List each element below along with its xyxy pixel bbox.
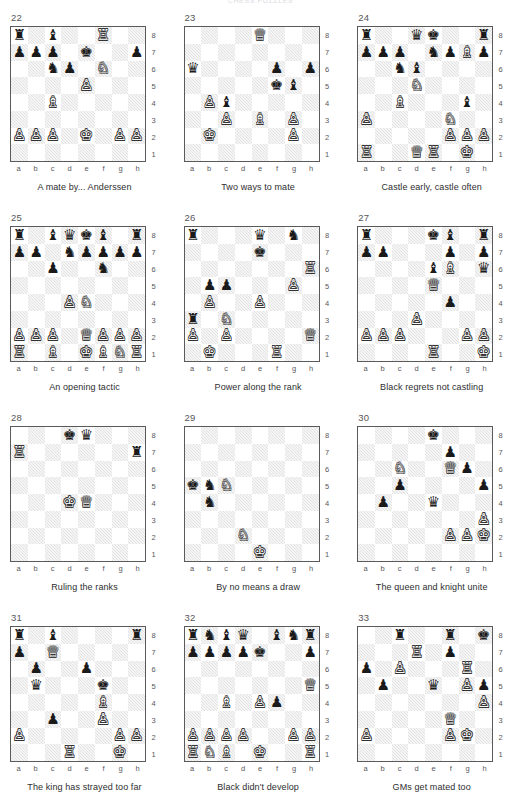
piece-bB-f8[interactable]: ♝ bbox=[268, 627, 285, 644]
square-e1[interactable] bbox=[252, 344, 269, 361]
square-c5[interactable] bbox=[218, 677, 235, 694]
square-a2[interactable] bbox=[185, 128, 202, 145]
square-g8[interactable] bbox=[285, 27, 302, 44]
square-c3[interactable] bbox=[45, 111, 62, 128]
piece-wN-f3[interactable]: ♘ bbox=[442, 111, 459, 128]
square-e8[interactable]: ♕ bbox=[252, 27, 269, 44]
square-h4[interactable] bbox=[128, 694, 145, 711]
square-f3[interactable]: ♕ bbox=[442, 711, 459, 728]
square-c3[interactable] bbox=[218, 711, 235, 728]
square-a5[interactable] bbox=[358, 677, 375, 694]
piece-bP-c5[interactable]: ♟ bbox=[392, 477, 409, 494]
square-d2[interactable] bbox=[408, 528, 425, 545]
square-g5[interactable]: ♙ bbox=[285, 277, 302, 294]
piece-wP-h2[interactable]: ♙ bbox=[302, 728, 319, 745]
square-e4[interactable] bbox=[425, 694, 442, 711]
square-b3[interactable] bbox=[28, 511, 45, 528]
square-g8[interactable] bbox=[112, 227, 129, 244]
square-h1[interactable]: ♔ bbox=[475, 344, 492, 361]
square-h2[interactable] bbox=[302, 128, 319, 145]
piece-bK-e8[interactable]: ♚ bbox=[425, 427, 442, 444]
square-b5[interactable]: ♟ bbox=[375, 677, 392, 694]
square-e2[interactable] bbox=[252, 328, 269, 345]
square-h5[interactable]: ♕ bbox=[302, 677, 319, 694]
piece-wP-b2[interactable]: ♙ bbox=[28, 128, 45, 145]
square-f5[interactable] bbox=[95, 77, 112, 94]
square-d3[interactable]: ♙ bbox=[408, 311, 425, 328]
square-f5[interactable] bbox=[268, 477, 285, 494]
square-a5[interactable] bbox=[185, 677, 202, 694]
piece-bP-b6[interactable]: ♟ bbox=[28, 661, 45, 678]
piece-bR-h7[interactable]: ♜ bbox=[128, 444, 145, 461]
square-f6[interactable]: ♕ bbox=[442, 461, 459, 478]
square-f4[interactable] bbox=[95, 494, 112, 511]
square-c5[interactable]: ♘ bbox=[218, 477, 235, 494]
piece-wR-f8[interactable]: ♖ bbox=[95, 27, 112, 44]
square-f3[interactable] bbox=[442, 511, 459, 528]
square-a2[interactable]: ♙ bbox=[11, 128, 28, 145]
square-b6[interactable] bbox=[201, 261, 218, 278]
piece-wQ-e4[interactable]: ♕ bbox=[78, 494, 95, 511]
square-a6[interactable] bbox=[185, 261, 202, 278]
piece-bK-h8[interactable]: ♚ bbox=[475, 627, 492, 644]
piece-wK-e1[interactable]: ♔ bbox=[78, 344, 95, 361]
piece-bQ-d8[interactable]: ♛ bbox=[235, 627, 252, 644]
square-c5[interactable]: ♟ bbox=[392, 477, 409, 494]
square-d8[interactable] bbox=[235, 427, 252, 444]
piece-bB-c8[interactable]: ♝ bbox=[45, 227, 62, 244]
square-e3[interactable] bbox=[252, 311, 269, 328]
square-e1[interactable]: ♖ bbox=[425, 344, 442, 361]
square-b1[interactable] bbox=[375, 144, 392, 161]
piece-bP-h6[interactable]: ♟ bbox=[302, 61, 319, 78]
square-a4[interactable] bbox=[185, 494, 202, 511]
piece-bP-f7[interactable]: ♟ bbox=[442, 644, 459, 661]
square-a6[interactable] bbox=[185, 461, 202, 478]
square-e8[interactable]: ♚ bbox=[425, 27, 442, 44]
square-a8[interactable]: ♜ bbox=[11, 27, 28, 44]
piece-bN-b8[interactable]: ♞ bbox=[201, 627, 218, 644]
square-d6[interactable] bbox=[408, 461, 425, 478]
square-c8[interactable]: ♝ bbox=[45, 627, 62, 644]
piece-bQ-h6[interactable]: ♛ bbox=[475, 261, 492, 278]
square-b8[interactable] bbox=[28, 427, 45, 444]
piece-wP-a2[interactable]: ♙ bbox=[358, 328, 375, 345]
square-f2[interactable] bbox=[95, 528, 112, 545]
piece-wP-g2[interactable]: ♙ bbox=[459, 128, 476, 145]
square-e3[interactable] bbox=[78, 511, 95, 528]
square-h5[interactable]: ♟ bbox=[475, 477, 492, 494]
square-e4[interactable]: ♙ bbox=[252, 294, 269, 311]
square-c3[interactable] bbox=[218, 511, 235, 528]
square-a1[interactable]: ♖ bbox=[185, 744, 202, 761]
square-c3[interactable]: ♟ bbox=[45, 711, 62, 728]
square-d5[interactable]: ♘ bbox=[408, 77, 425, 94]
square-c7[interactable] bbox=[392, 444, 409, 461]
square-f3[interactable]: ♙ bbox=[95, 711, 112, 728]
square-c6[interactable]: ♘ bbox=[392, 461, 409, 478]
square-b8[interactable] bbox=[28, 27, 45, 44]
square-b4[interactable] bbox=[28, 294, 45, 311]
piece-wK-h2[interactable]: ♔ bbox=[475, 528, 492, 545]
square-d6[interactable] bbox=[235, 61, 252, 78]
square-a5[interactable] bbox=[358, 277, 375, 294]
piece-wP-c2[interactable]: ♙ bbox=[392, 328, 409, 345]
square-f6[interactable] bbox=[268, 461, 285, 478]
square-f2[interactable] bbox=[95, 728, 112, 745]
square-g1[interactable] bbox=[112, 544, 129, 561]
square-d6[interactable] bbox=[408, 661, 425, 678]
square-h2[interactable]: ♔ bbox=[475, 528, 492, 545]
piece-wB-f4[interactable]: ♗ bbox=[95, 694, 112, 711]
piece-bQ-a6[interactable]: ♛ bbox=[185, 61, 202, 78]
square-g5[interactable]: ♙ bbox=[459, 677, 476, 694]
square-b1[interactable] bbox=[28, 344, 45, 361]
square-h4[interactable] bbox=[302, 294, 319, 311]
square-f5[interactable] bbox=[268, 677, 285, 694]
piece-bP-h7[interactable]: ♟ bbox=[475, 244, 492, 261]
square-h3[interactable] bbox=[302, 111, 319, 128]
square-f6[interactable] bbox=[442, 61, 459, 78]
square-h5[interactable] bbox=[302, 477, 319, 494]
square-g1[interactable] bbox=[285, 344, 302, 361]
square-c1[interactable] bbox=[392, 544, 409, 561]
piece-bP-h7[interactable]: ♟ bbox=[128, 44, 145, 61]
square-d7[interactable] bbox=[61, 644, 78, 661]
square-f2[interactable] bbox=[268, 528, 285, 545]
